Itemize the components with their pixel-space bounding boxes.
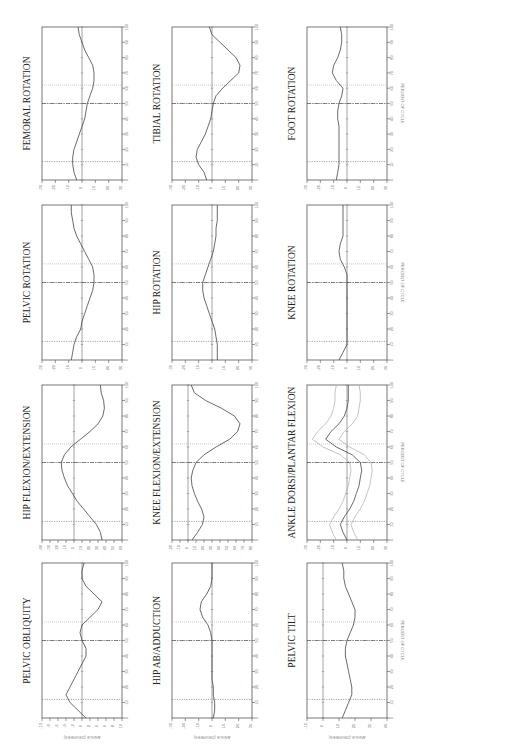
- x-tick-label: 0: [389, 358, 394, 361]
- x-tick-label: 20: [254, 684, 259, 689]
- y-tick-label: -30: [303, 184, 308, 191]
- chart-title: TIBIAL ROTATION: [152, 63, 162, 143]
- x-tick-label: 0: [389, 716, 394, 719]
- x-tick-label: 60: [254, 85, 259, 90]
- x-tick-label: 30: [124, 311, 129, 316]
- x-tick-label: 40: [389, 653, 394, 658]
- x-tick-label: 60: [124, 622, 129, 627]
- y-tick-label: 20: [370, 185, 375, 190]
- x-tick-label: 20: [389, 684, 394, 689]
- y-tick-label: -10: [65, 364, 70, 371]
- x-tick-label: 30: [389, 669, 394, 674]
- x-tick-label: 50: [124, 638, 129, 643]
- y-tick-label: 0: [319, 724, 324, 727]
- y-tick-label: 10: [356, 185, 361, 190]
- y-tick-label: -30: [46, 544, 51, 551]
- y-tick-label: 0: [343, 186, 348, 189]
- x-tick-label: 10: [389, 342, 394, 347]
- y-tick-label: -20: [316, 184, 321, 191]
- y-tick-label: 50: [224, 545, 229, 550]
- hip-rotation-chart: 0102030405060708090100-30-20-100102030HI…: [152, 201, 259, 371]
- x-tick-label: 0: [254, 358, 259, 361]
- x-tick-label: 80: [124, 233, 129, 238]
- x-tick-label: 10: [389, 162, 394, 167]
- x-tick-label: 10: [124, 700, 129, 705]
- x-tick-label: 10: [254, 700, 259, 705]
- x-tick-label: 90: [124, 576, 129, 581]
- x-tick-label: 60: [124, 444, 129, 449]
- y-tick-label: 20: [105, 185, 110, 190]
- y-tick-label: -30: [303, 544, 308, 551]
- x-tick-label: 60: [124, 85, 129, 90]
- y-tick-label: -30: [38, 184, 43, 191]
- x-tick-label: 50: [254, 101, 259, 106]
- y-tick-label: -2: [70, 723, 75, 727]
- x-tick-label: 100: [124, 201, 129, 208]
- chart-title: FOOT ROTATION: [287, 66, 297, 140]
- x-tick-label: 0: [124, 716, 129, 719]
- y-tick-label: 40: [216, 545, 221, 550]
- pelvic-tilt-chart: 0102030405060708090100-10010203040PELVIC…: [287, 559, 405, 740]
- x-axis-label: PERCENT OF CYCLE: [400, 262, 405, 302]
- x-tick-label: 0: [124, 178, 129, 181]
- x-tick-label: 60: [389, 444, 394, 449]
- y-tick-label: -20: [316, 364, 321, 371]
- x-tick-label: 20: [254, 506, 259, 511]
- x-tick-label: 20: [124, 506, 129, 511]
- x-tick-label: 60: [389, 622, 394, 627]
- y-tick-label: -40: [38, 544, 43, 551]
- x-tick-label: 40: [254, 653, 259, 658]
- y-tick-label: -10: [65, 184, 70, 191]
- y-tick-label: 10: [221, 185, 226, 190]
- x-tick-label: 40: [124, 116, 129, 121]
- y-tick-label: 30: [248, 365, 253, 370]
- x-tick-label: 30: [389, 311, 394, 316]
- x-tick-label: 100: [389, 201, 394, 208]
- hip-flexion-extension-chart: 0102030405060708090100-40-30-20-10010203…: [22, 381, 129, 551]
- x-tick-label: 60: [254, 264, 259, 269]
- x-tick-label: 30: [254, 311, 259, 316]
- x-tick-label: 80: [389, 233, 394, 238]
- y-tick-label: 20: [200, 545, 205, 550]
- x-tick-label: 40: [254, 475, 259, 480]
- x-tick-label: 70: [254, 429, 259, 434]
- chart-title: PELVIC OBLIQUITY: [22, 597, 32, 684]
- x-tick-label: 20: [389, 326, 394, 331]
- y-tick-label: 30: [383, 545, 388, 550]
- x-tick-label: 70: [254, 70, 259, 75]
- y-tick-label: 40: [102, 545, 107, 550]
- x-tick-label: 90: [254, 398, 259, 403]
- x-tick-label: 100: [254, 201, 259, 208]
- x-tick-label: 20: [254, 326, 259, 331]
- x-tick-label: 40: [389, 116, 394, 121]
- x-tick-label: 0: [254, 716, 259, 719]
- y-tick-label: 50: [110, 545, 115, 550]
- x-tick-label: 0: [254, 538, 259, 541]
- y-tick-label: -10: [195, 364, 200, 371]
- x-tick-label: 80: [124, 591, 129, 596]
- y-tick-label: 40: [383, 723, 388, 728]
- x-tick-label: 90: [124, 398, 129, 403]
- x-tick-label: 0: [254, 178, 259, 181]
- knee-flexion-extension-chart: 0102030405060708090100-20-10010203040506…: [152, 381, 259, 551]
- x-tick-label: 10: [389, 522, 394, 527]
- y-tick-label: 10: [356, 365, 361, 370]
- y-tick-label: 30: [94, 545, 99, 550]
- x-tick-label: 60: [389, 264, 394, 269]
- y-tick-label: 10: [91, 185, 96, 190]
- y-tick-label: -20: [181, 184, 186, 191]
- y-tick-label: 0: [208, 186, 213, 189]
- y-tick-label: 30: [118, 185, 123, 190]
- x-tick-label: 80: [124, 55, 129, 60]
- x-tick-label: 60: [254, 622, 259, 627]
- y-tick-label: 0: [78, 186, 83, 189]
- x-tick-label: 90: [254, 39, 259, 44]
- x-tick-label: 40: [124, 295, 129, 300]
- femoral-rotation-chart: 0102030405060708090100-30-20-100102030FE…: [22, 23, 129, 191]
- x-tick-label: 50: [254, 460, 259, 465]
- y-tick-label: 60: [232, 545, 237, 550]
- y-tick-label: -4: [62, 723, 67, 727]
- x-tick-label: 90: [124, 39, 129, 44]
- x-tick-label: 90: [254, 218, 259, 223]
- x-tick-label: 30: [124, 131, 129, 136]
